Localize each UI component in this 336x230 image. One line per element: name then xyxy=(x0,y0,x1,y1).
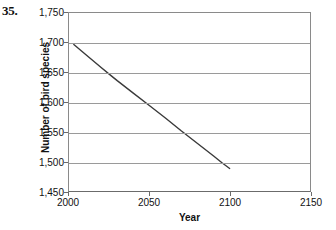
x-axis-tick-label: 2000 xyxy=(57,197,79,208)
problem-number: 35. xyxy=(2,3,18,19)
gridline-y-1,500 xyxy=(69,163,310,164)
gridline-y-1,600 xyxy=(69,103,310,104)
y-axis-title-container: Number of bird species xyxy=(22,12,23,192)
data-series-line xyxy=(69,13,310,191)
x-axis-tick-label: 2150 xyxy=(300,197,322,208)
y-axis-labels: 1,4501,5001,5501,6001,6501,7001,750 xyxy=(26,12,64,192)
x-axis-labels: 2000205021002150 xyxy=(68,197,311,211)
x-axis-tick xyxy=(311,192,312,196)
gridline-y-1,650 xyxy=(69,73,310,74)
chart-screenshot: 35. Number of bird species 1,4501,5001,5… xyxy=(0,0,336,230)
x-axis-tick-label: 2100 xyxy=(219,197,241,208)
x-axis-tick xyxy=(230,192,231,196)
gridline-y-1,550 xyxy=(69,133,310,134)
x-axis-tick xyxy=(149,192,150,196)
y-axis-tick-label: 1,700 xyxy=(39,37,64,48)
x-axis-title: Year xyxy=(68,212,311,223)
y-axis-tick-label: 1,650 xyxy=(39,67,64,78)
x-axis-tick xyxy=(68,192,69,196)
y-axis-tick-label: 1,450 xyxy=(39,187,64,198)
gridline-y-1,700 xyxy=(69,43,310,44)
plot-area xyxy=(68,12,311,192)
y-axis-tick-label: 1,500 xyxy=(39,157,64,168)
y-axis-tick-label: 1,600 xyxy=(39,97,64,108)
y-axis-tick-label: 1,750 xyxy=(39,7,64,18)
y-axis-tick-label: 1,550 xyxy=(39,127,64,138)
x-axis-tick-label: 2050 xyxy=(138,197,160,208)
